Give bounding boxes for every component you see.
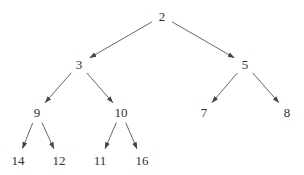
tree-node-10: 10 [115, 105, 128, 120]
edge-9-to-12 [42, 123, 54, 149]
tree-node-16: 16 [136, 153, 150, 168]
edge-3-to-9 [45, 73, 71, 103]
tree-node-5: 5 [242, 57, 249, 72]
tree-node-8: 8 [284, 105, 291, 120]
edge-3-to-10 [87, 73, 113, 103]
edges-layer [23, 22, 279, 149]
edge-5-to-7 [212, 73, 237, 103]
tree-node-3: 3 [76, 57, 83, 72]
tree-diagram: 2359107814121116 [0, 0, 304, 175]
edge-9-to-14 [23, 123, 33, 148]
tree-node-12: 12 [53, 153, 66, 168]
tree-node-11: 11 [94, 153, 107, 168]
tree-node-9: 9 [34, 105, 41, 120]
tree-node-2: 2 [159, 9, 166, 24]
edge-10-to-16 [126, 123, 137, 149]
edge-2-to-3 [90, 22, 152, 58]
tree-node-14: 14 [12, 153, 26, 168]
edge-2-to-5 [172, 22, 234, 58]
tree-node-7: 7 [201, 105, 208, 120]
nodes-layer: 2359107814121116 [12, 9, 291, 168]
edge-10-to-11 [105, 123, 116, 149]
edge-5-to-8 [253, 73, 279, 103]
